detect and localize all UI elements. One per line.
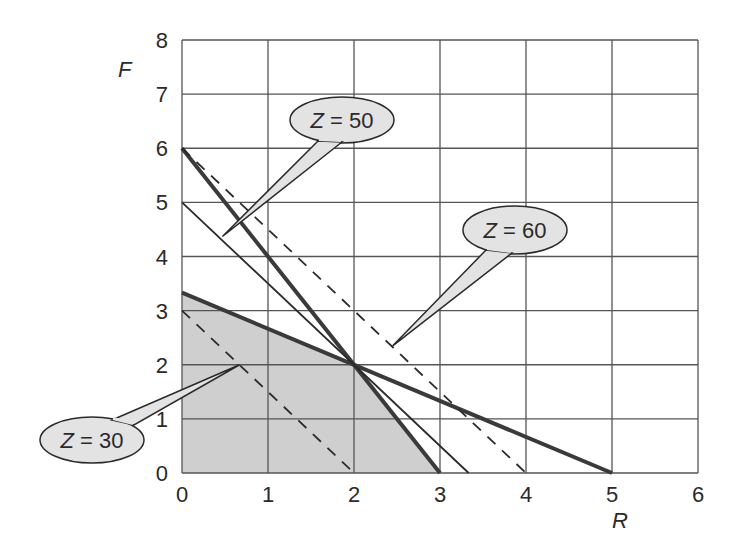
callout-label: Z = 60	[483, 218, 547, 243]
y-tick-label: 5	[156, 190, 168, 215]
x-tick-label: 1	[262, 482, 274, 507]
callout-pointer	[393, 250, 512, 346]
callout-label: Z = 50	[310, 108, 374, 133]
y-tick-label: 6	[156, 136, 168, 161]
y-tick-label: 8	[156, 28, 168, 53]
callout-60: Z = 60	[393, 206, 567, 346]
x-tick-label: 4	[520, 482, 532, 507]
y-tick-label: 2	[156, 353, 168, 378]
y-tick-label: 4	[156, 245, 168, 270]
callout-pointer	[222, 141, 342, 236]
x-tick-label: 2	[348, 482, 360, 507]
callout-50: Z = 50	[222, 97, 394, 236]
x-tick-label: 0	[176, 482, 188, 507]
y-tick-label: 7	[156, 82, 168, 107]
y-tick-label: 3	[156, 299, 168, 324]
x-axis-label: R	[612, 508, 628, 533]
y-axis-label: F	[118, 57, 133, 82]
callout-label: Z = 30	[60, 428, 124, 453]
x-tick-label: 6	[692, 482, 704, 507]
lp-graph: 0123456012345678 R F Z = 50Z = 60Z = 30	[0, 0, 742, 553]
x-tick-label: 5	[606, 482, 618, 507]
y-tick-label: 0	[156, 461, 168, 486]
x-tick-label: 3	[434, 482, 446, 507]
